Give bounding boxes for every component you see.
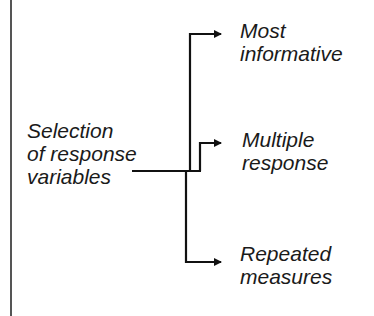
arrow-to-multiple-response	[200, 143, 221, 171]
connector-lines	[0, 0, 374, 316]
arrow-to-repeated-measures	[186, 171, 221, 262]
arrow-to-most-informative	[190, 34, 221, 171]
